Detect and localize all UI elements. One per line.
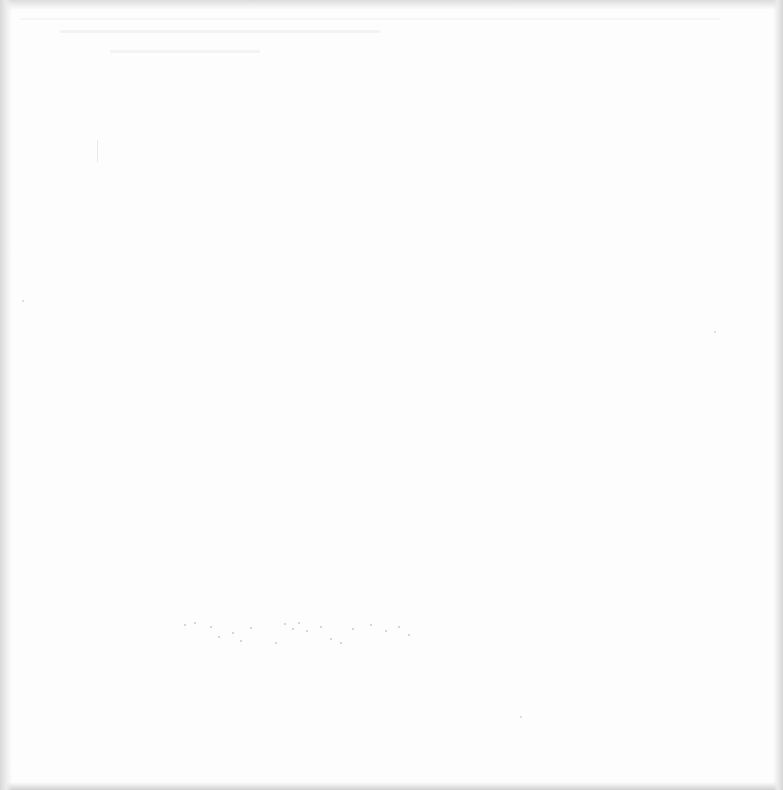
bleed-through-line (110, 50, 260, 53)
scan-speck (714, 331, 716, 333)
scan-edge-bottom (0, 782, 783, 790)
scan-speck (520, 716, 522, 718)
scan-speck (22, 300, 24, 302)
scan-edge-top (0, 0, 783, 10)
bleed-through-line (20, 18, 720, 20)
scan-edge-right (773, 0, 783, 790)
scan-smudge (180, 618, 415, 648)
bleed-through-line (60, 30, 380, 33)
scanned-blank-page (0, 0, 783, 790)
bleed-through-mark (97, 140, 98, 162)
scan-edge-left (0, 0, 12, 790)
